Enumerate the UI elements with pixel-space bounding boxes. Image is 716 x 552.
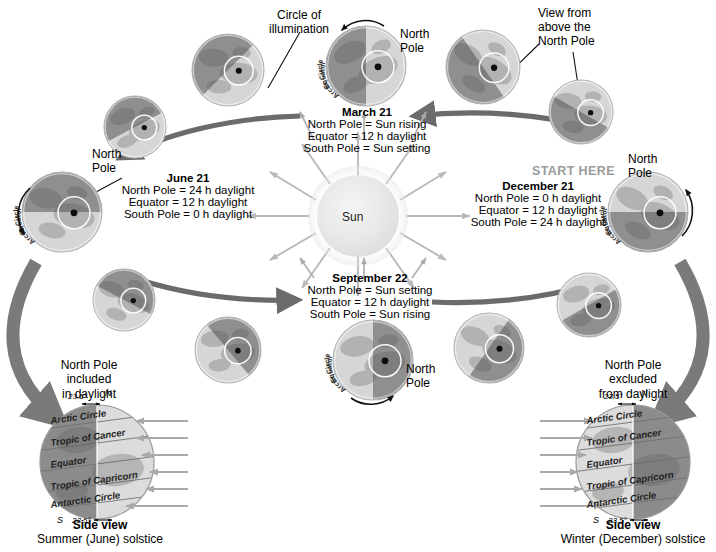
label-circle-of-illumination-text: Circle of illumination bbox=[269, 8, 329, 36]
pole-n-summer: N bbox=[105, 388, 112, 399]
pole-n-winter: N bbox=[641, 388, 648, 399]
seasons-diagram: EquatorArctic CircleEquatorArctic Circle… bbox=[0, 0, 716, 552]
side-note-winter: North Pole excluded from daylight bbox=[572, 358, 694, 401]
start-here-label: START HERE bbox=[532, 164, 615, 179]
north-pole-dot bbox=[491, 65, 497, 71]
pole-n-text: N bbox=[105, 388, 112, 398]
label-view-from-above-text: View from above the North Pole bbox=[538, 6, 595, 48]
label-north-pole-june-text: North Pole bbox=[92, 147, 121, 175]
north-pole-dot bbox=[382, 357, 389, 364]
season-line: North Pole = Sun rising bbox=[274, 118, 460, 130]
intermediate-globe bbox=[43, 35, 195, 159]
side-caption-summer-normal: Summer (June) solstice bbox=[10, 532, 190, 546]
start-here-text: START HERE bbox=[532, 164, 615, 178]
season-line: Equator = 12 h daylight bbox=[104, 196, 272, 208]
side-caption-winter-bold: Side view bbox=[538, 518, 716, 532]
north-pole-dot bbox=[71, 209, 78, 216]
label-view-from-above: View from above the North Pole bbox=[538, 6, 644, 48]
season-title-december: December 21 bbox=[452, 180, 624, 192]
season-block-december: December 21 North Pole = 0 h daylight Eq… bbox=[452, 180, 624, 228]
tilt-value: 23.5 bbox=[608, 516, 624, 525]
label-north-pole-december-text: North Pole bbox=[628, 152, 657, 180]
side-caption-winter-normal: Winter (December) solstice bbox=[538, 532, 716, 546]
leader-circle-illumination bbox=[268, 32, 300, 88]
season-line: Equator = 12 h daylight bbox=[452, 204, 624, 216]
season-line: North Pole = 24 h daylight bbox=[104, 184, 272, 196]
season-title-june: June 21 bbox=[104, 172, 272, 184]
tilt-label-winter-bottom: 23.5° bbox=[608, 516, 627, 525]
label-north-pole-september: North Pole bbox=[406, 362, 460, 390]
side-caption-summer: Side view Summer (June) solstice bbox=[10, 518, 190, 546]
season-block-september: September 22 North Pole = Sun setting Eq… bbox=[282, 272, 458, 320]
season-title-march: March 21 bbox=[274, 106, 460, 118]
north-pole-dot bbox=[235, 348, 241, 354]
season-line: Equator = 12 h daylight bbox=[274, 130, 460, 142]
north-pole-dot bbox=[375, 63, 382, 70]
pole-s-winter: S bbox=[593, 515, 599, 526]
label-circle-of-illumination: Circle of illumination bbox=[246, 8, 352, 36]
label-north-pole-september-text: North Pole bbox=[406, 362, 435, 390]
north-pole-dot bbox=[588, 110, 593, 115]
north-pole-dot bbox=[131, 298, 136, 303]
side-caption-winter: Side view Winter (December) solstice bbox=[538, 518, 716, 546]
label-north-pole-december: North Pole bbox=[628, 152, 682, 180]
season-block-march: March 21 North Pole = Sun rising Equator… bbox=[274, 106, 460, 154]
season-line: South Pole = 24 h daylight bbox=[452, 216, 624, 228]
pole-s-text: S bbox=[593, 515, 599, 525]
tilt-value: 23.5 bbox=[604, 392, 620, 401]
season-title-september: September 22 bbox=[282, 272, 458, 284]
pole-n-text: N bbox=[641, 388, 648, 398]
north-pole-dot bbox=[142, 125, 147, 130]
sun-label: Sun bbox=[342, 210, 363, 224]
label-north-pole-march-text: North Pole bbox=[400, 27, 429, 55]
label-north-pole-march: North Pole bbox=[400, 27, 450, 55]
season-line: South Pole = Sun setting bbox=[274, 142, 460, 154]
north-pole-dot bbox=[596, 303, 601, 308]
pole-s-summer: S bbox=[57, 515, 63, 526]
tilt-value: 23.5 bbox=[68, 392, 84, 401]
side-caption-summer-bold: Side view bbox=[10, 518, 190, 532]
tilt-label-winter-top: 23.5° bbox=[604, 392, 623, 401]
sun-label-text: Sun bbox=[342, 210, 363, 224]
tilt-label-summer-bottom: 23.5° bbox=[72, 516, 91, 525]
season-block-june: June 21 North Pole = 24 h daylight Equat… bbox=[104, 172, 272, 220]
side-note-summer: North Pole included in daylight bbox=[28, 358, 150, 401]
tilt-value: 23.5 bbox=[72, 516, 88, 525]
season-line: North Pole = 0 h daylight bbox=[452, 192, 624, 204]
season-line: Equator = 12 h daylight bbox=[282, 296, 458, 308]
tilt-label-summer-top: 23.5° bbox=[68, 392, 87, 401]
pole-s-text: S bbox=[57, 515, 63, 525]
north-pole-dot bbox=[657, 209, 664, 216]
season-line: South Pole = 0 h daylight bbox=[104, 208, 272, 220]
season-line: South Pole = Sun rising bbox=[282, 308, 458, 320]
north-pole-dot bbox=[236, 68, 242, 74]
north-pole-dot bbox=[497, 346, 503, 352]
season-line: North Pole = Sun setting bbox=[282, 284, 458, 296]
